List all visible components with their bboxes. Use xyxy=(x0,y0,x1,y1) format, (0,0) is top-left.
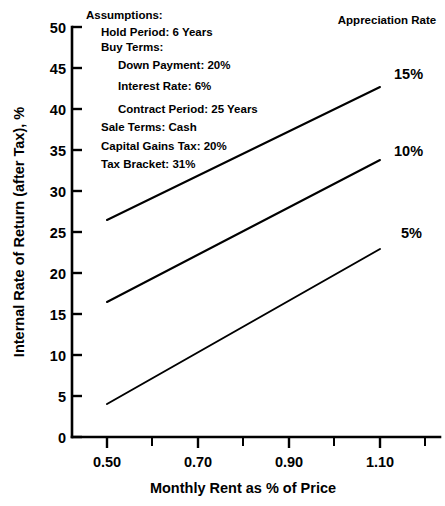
chart-figure: 50 45 40 35 30 25 20 15 10 5 0 0.50 0.70… xyxy=(0,0,445,506)
assumption-line-4: Contract Period: 25 Years xyxy=(118,103,258,115)
y-tick-label-25: 25 xyxy=(50,225,66,241)
irr-line-chart: 50 45 40 35 30 25 20 15 10 5 0 0.50 0.70… xyxy=(0,0,445,506)
y-axis-ticks xyxy=(72,27,82,437)
x-tick-label-050: 0.50 xyxy=(93,454,121,470)
assumption-line-7: Tax Bracket: 31% xyxy=(101,158,195,170)
y-tick-label-15: 15 xyxy=(50,307,66,323)
x-axis-title: Monthly Rent as % of Price xyxy=(150,480,336,496)
series-label-10pct: 10% xyxy=(394,143,423,159)
series-label-15pct: 15% xyxy=(394,66,423,82)
y-tick-label-0: 0 xyxy=(58,430,66,446)
y-tick-label-40: 40 xyxy=(50,102,66,118)
legend-title: Appreciation Rate xyxy=(338,14,436,26)
x-axis-ticks xyxy=(107,437,425,448)
assumption-line-2: Down Payment: 20% xyxy=(118,59,230,71)
y-tick-label-50: 50 xyxy=(50,20,66,36)
assumption-line-0: Hold Period: 6 Years xyxy=(101,26,213,38)
y-tick-label-35: 35 xyxy=(50,143,66,159)
x-tick-label-110: 1.10 xyxy=(366,454,394,470)
assumption-line-6: Capital Gains Tax: 20% xyxy=(101,140,227,152)
x-tick-label-090: 0.90 xyxy=(275,454,303,470)
assumptions-heading: Assumptions: xyxy=(86,9,163,21)
assumptions-block: Assumptions: Hold Period: 6 Years Buy Te… xyxy=(86,9,258,170)
y-tick-label-5: 5 xyxy=(58,389,66,405)
series-label-5pct: 5% xyxy=(401,225,422,241)
y-tick-label-10: 10 xyxy=(50,348,66,364)
assumption-line-3: Interest Rate: 6% xyxy=(118,80,211,92)
series-line-10pct xyxy=(107,160,380,302)
y-axis-title: Internal Rate of Return (after Tax), % xyxy=(11,107,27,357)
y-tick-label-20: 20 xyxy=(50,266,66,282)
assumption-line-5: Sale Terms: Cash xyxy=(101,121,197,133)
x-tick-label-070: 0.70 xyxy=(184,454,212,470)
assumption-line-1: Buy Terms: xyxy=(101,41,163,53)
series-line-5pct xyxy=(107,249,380,404)
y-tick-label-30: 30 xyxy=(50,184,66,200)
y-tick-label-45: 45 xyxy=(50,61,66,77)
